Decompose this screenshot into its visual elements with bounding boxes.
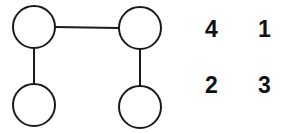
label-top-right: 1 — [258, 18, 271, 41]
edge-top-left-top-right — [55, 27, 119, 28]
label-bottom-right: 3 — [258, 74, 271, 97]
label-bottom-left: 2 — [205, 74, 218, 97]
node-bottom-left — [13, 84, 55, 126]
node-bottom-right — [119, 86, 161, 128]
node-top-right — [119, 7, 161, 49]
label-top-left: 4 — [205, 18, 218, 41]
graph-diagram — [0, 0, 180, 134]
node-top-left — [13, 6, 55, 48]
